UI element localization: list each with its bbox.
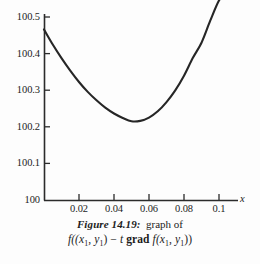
plot-area: 100.5 100.4 100.3 100.2 100.1 100 0.02 0… (0, 0, 260, 214)
formula-grad: grad (123, 233, 152, 245)
figure-container: 100.5 100.4 100.3 100.2 100.1 100 0.02 0… (0, 0, 260, 264)
plot-svg (0, 0, 260, 214)
formula-close-2: )) (184, 233, 192, 245)
xtick-label-0-08: 0.08 (167, 203, 201, 214)
ytick-label-100: 100 (2, 194, 40, 205)
xtick-label-0-04: 0.04 (97, 203, 131, 214)
formula-f-open: f(( (68, 233, 79, 245)
formula-f-2: f( (153, 233, 160, 245)
ytick-label-100-4: 100.4 (2, 48, 40, 59)
caption-figure-text: graph of (146, 218, 183, 230)
caption-figure-label: Figure 14.19: (77, 218, 141, 230)
xtick-label-0-06: 0.06 (132, 203, 166, 214)
ytick-label-100-1: 100.1 (2, 157, 40, 168)
axis-lines (44, 14, 238, 201)
caption-line-2-formula: f((x1, y1) − t grad f(x1, y1)) (0, 231, 260, 252)
x-tick-marks (79, 194, 219, 200)
x-axis-title: x (240, 193, 245, 204)
ytick-label-100-3: 100.3 (2, 84, 40, 95)
caption-line-1: Figure 14.19: graph of (0, 217, 260, 231)
figure-caption: Figure 14.19: graph of f((x1, y1) − t gr… (0, 217, 260, 252)
xtick-label-0-1: 0.1 (204, 203, 234, 214)
ytick-label-100-5: 100.5 (2, 11, 40, 22)
xtick-label-0-02: 0.02 (62, 203, 96, 214)
ytick-label-100-2: 100.2 (2, 121, 40, 132)
data-curve (44, 0, 225, 121)
formula-minus: − (107, 233, 120, 245)
